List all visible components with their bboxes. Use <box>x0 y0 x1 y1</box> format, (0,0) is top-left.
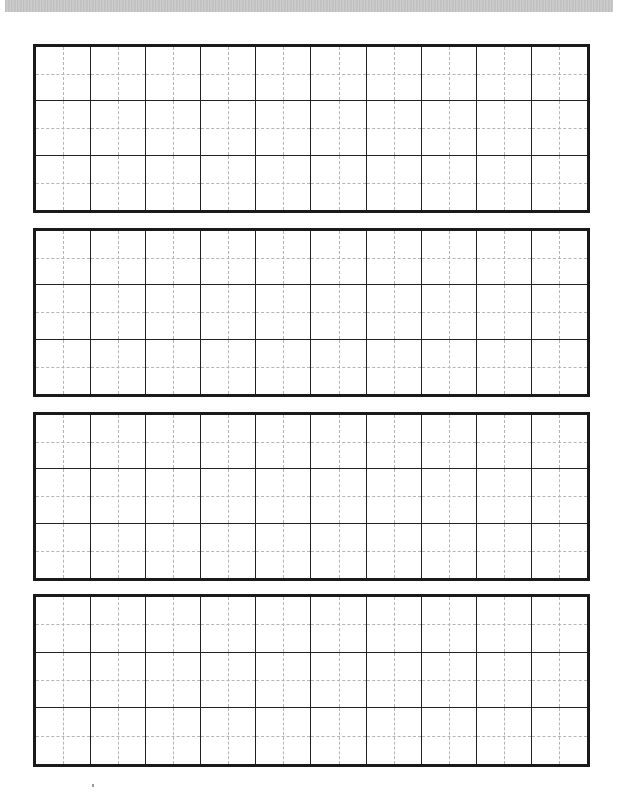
grid-cell <box>146 597 201 653</box>
grid-cell <box>36 231 91 285</box>
grid-cell <box>311 47 366 101</box>
grid-cell <box>201 101 256 155</box>
grid-cell <box>367 47 422 101</box>
scan-speck <box>92 784 94 787</box>
grid-cell <box>532 469 587 523</box>
grid-cell <box>146 708 201 764</box>
grid-cell <box>256 340 311 394</box>
grid-cell <box>201 597 256 653</box>
grid-cell <box>256 653 311 709</box>
grid-cell <box>146 231 201 285</box>
grid-cell <box>311 653 366 709</box>
grid-cell <box>367 231 422 285</box>
writing-grid-4 <box>33 594 590 767</box>
grid-cell <box>422 340 477 394</box>
grid-cell <box>477 47 532 101</box>
grid-cell <box>477 653 532 709</box>
grid-cell <box>91 101 146 155</box>
grid-cell <box>91 597 146 653</box>
grid-cell <box>532 524 587 578</box>
grid-cell <box>422 469 477 523</box>
grid-cell <box>91 47 146 101</box>
grid-cell <box>422 597 477 653</box>
grid-cell <box>256 156 311 210</box>
grid-cell <box>532 708 587 764</box>
grid-cell <box>36 469 91 523</box>
grid-cell <box>146 653 201 709</box>
grid-cell <box>532 340 587 394</box>
grid-cell <box>91 524 146 578</box>
grid-cell <box>532 231 587 285</box>
grid-cell <box>201 156 256 210</box>
grid-cell <box>146 469 201 523</box>
grid-cell <box>256 597 311 653</box>
grid-cell <box>422 653 477 709</box>
grid-cell <box>36 597 91 653</box>
grid-cell <box>201 524 256 578</box>
grid-cell <box>477 597 532 653</box>
grid-cell <box>36 340 91 394</box>
grid-cell <box>422 285 477 339</box>
writing-grid-3 <box>33 412 590 581</box>
grid-cell <box>91 469 146 523</box>
grid-cell <box>532 47 587 101</box>
grid-cell <box>422 156 477 210</box>
grid-cell <box>146 156 201 210</box>
grid-cell <box>36 47 91 101</box>
grid-cell <box>311 285 366 339</box>
grid-cell <box>367 469 422 523</box>
grid-cell <box>36 415 91 469</box>
grid-cell <box>477 415 532 469</box>
grid-cell <box>311 708 366 764</box>
grid-cell <box>91 156 146 210</box>
grid-cell <box>91 708 146 764</box>
grid-cell <box>36 708 91 764</box>
grid-cell <box>256 231 311 285</box>
grid-cell <box>477 708 532 764</box>
grid-cell <box>311 340 366 394</box>
grid-cell <box>477 231 532 285</box>
grid-cell <box>146 524 201 578</box>
grid-cell <box>367 597 422 653</box>
grid-cell <box>311 101 366 155</box>
grid-cell <box>367 524 422 578</box>
grid-cell <box>367 156 422 210</box>
grid-cell <box>422 524 477 578</box>
grid-cell <box>91 285 146 339</box>
grid-cell <box>36 156 91 210</box>
grid-cell <box>36 653 91 709</box>
grid-cell <box>422 708 477 764</box>
grid-cell <box>91 340 146 394</box>
grid-cell <box>311 524 366 578</box>
grid-cell <box>91 653 146 709</box>
grid-cell <box>201 415 256 469</box>
grid-cell <box>36 285 91 339</box>
grid-cell <box>367 653 422 709</box>
grid-cell <box>146 47 201 101</box>
grid-cell <box>532 653 587 709</box>
grid-cell <box>477 340 532 394</box>
grid-cell <box>367 708 422 764</box>
grid-cell <box>201 653 256 709</box>
grid-cell <box>146 101 201 155</box>
grid-cell <box>201 231 256 285</box>
grid-cell <box>532 415 587 469</box>
grid-cell <box>256 285 311 339</box>
grid-cell <box>532 101 587 155</box>
grid-cell <box>256 47 311 101</box>
grid-cell <box>477 156 532 210</box>
grid-cell <box>201 47 256 101</box>
scan-top-band <box>5 0 613 12</box>
grid-cell <box>367 101 422 155</box>
grid-cell <box>256 101 311 155</box>
grid-cell <box>532 597 587 653</box>
grid-cell <box>422 231 477 285</box>
grid-cell <box>367 415 422 469</box>
grid-cell <box>91 415 146 469</box>
grid-cell <box>146 415 201 469</box>
grid-cell <box>422 101 477 155</box>
grid-cell <box>256 524 311 578</box>
writing-grid-1 <box>33 44 590 213</box>
grid-cell <box>367 340 422 394</box>
writing-grid-2 <box>33 228 590 397</box>
